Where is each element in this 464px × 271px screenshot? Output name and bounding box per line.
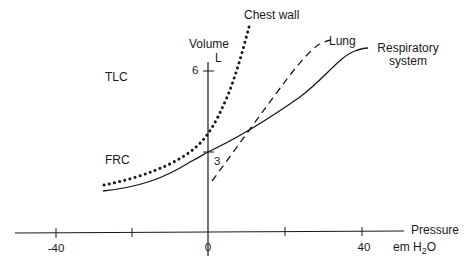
x-axis-unit-prefix: em H: [393, 240, 422, 254]
x-tick-label-neg40: -40: [46, 242, 66, 255]
respiratory-system-label: Respiratory system: [362, 42, 454, 68]
x-axis-unit-suffix: O: [427, 240, 436, 254]
lung-label: Lung: [329, 34, 356, 48]
y-tick-label-3: 3: [214, 155, 220, 168]
chest-wall-label: Chest wall: [244, 8, 299, 22]
respiratory-system-curve: [103, 48, 368, 191]
x-tick-label-0: 0: [198, 241, 218, 254]
lung-curve: [212, 40, 331, 181]
tlc-annotation: TLC: [105, 70, 128, 84]
pressure-volume-diagram: Volume L 6 3 -40 0 40 Pressure em H2O TL…: [0, 0, 464, 271]
y-axis-label: Volume: [189, 37, 229, 51]
x-tick-label-40: 40: [354, 241, 374, 254]
x-axis-line: [15, 231, 404, 233]
x-axis-label: Pressure: [411, 223, 459, 237]
y-axis-unit: L: [215, 51, 222, 65]
frc-annotation: FRC: [105, 153, 130, 167]
y-tick-label-6: 6: [192, 64, 198, 77]
x-axis-unit: em H2O: [393, 240, 436, 254]
respiratory-system-label-line2: system: [362, 55, 454, 68]
